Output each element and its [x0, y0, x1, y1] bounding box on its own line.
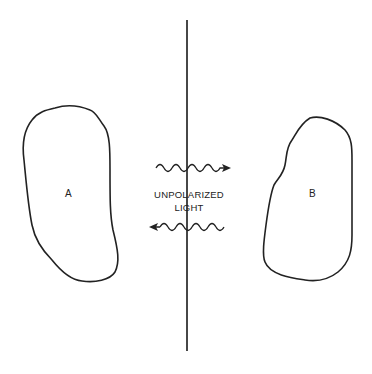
center-label-line2: LIGHT	[144, 203, 234, 213]
region-a-label: A	[65, 189, 72, 199]
diagram-canvas	[0, 0, 372, 374]
center-label-line1: UNPOLARIZED	[144, 190, 234, 200]
region-b-label: B	[309, 189, 316, 199]
region-b-outline	[263, 117, 352, 281]
wave-left	[152, 224, 224, 231]
wave-right	[156, 165, 228, 172]
